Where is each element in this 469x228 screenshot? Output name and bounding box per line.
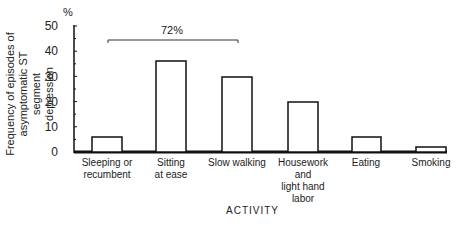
bar-smoking: [416, 147, 446, 152]
x-tick-smoking: Smoking: [386, 157, 469, 169]
bar-slow-walking: [222, 77, 252, 152]
bar-sitting: [156, 61, 186, 152]
x-axis-title: ACTIVITY: [226, 205, 279, 216]
plot-area: [0, 0, 469, 228]
bracket-annotation: 72%: [161, 24, 183, 36]
bar-sleeping: [92, 137, 122, 152]
bar-eating: [352, 137, 381, 152]
bar-housework: [288, 102, 318, 152]
